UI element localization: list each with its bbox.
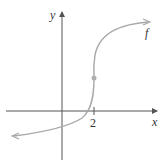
- inflection-point: [92, 76, 97, 81]
- curve-f: [14, 22, 148, 136]
- function-graph: y x f 2: [0, 0, 165, 167]
- y-axis-label: y: [49, 8, 56, 22]
- x-axis-label: x: [151, 115, 158, 129]
- curve-label-f: f: [145, 26, 150, 40]
- x-tick-label-2: 2: [90, 116, 96, 130]
